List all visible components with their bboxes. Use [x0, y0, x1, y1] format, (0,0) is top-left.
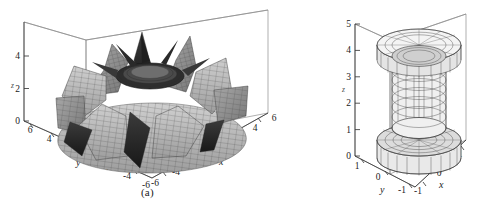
panel-a: 0 2 4 z 6 4 2 0 -2 -4 -6 y: [0, 0, 280, 209]
z-axis-a: 0 2 4 z: [10, 22, 29, 126]
mesh-surface-b: [377, 29, 461, 176]
panel-b-canvas: 0 1 2 3 4 5 z 1 0 -1 y: [280, 0, 479, 209]
y-tick-b-0: 0: [376, 172, 381, 182]
z-tick-b-0: 0: [346, 151, 351, 161]
y-tick-a-4: 4: [47, 134, 52, 144]
z-tick-b-1: 1: [346, 125, 351, 135]
panel-b: 0 1 2 3 4 5 z 1 0 -1 y: [280, 0, 479, 209]
figure-container: 0 2 4 z 6 4 2 0 -2 -4 -6 y: [0, 0, 479, 209]
x-tick-a-4: 4: [253, 123, 258, 133]
x-axis-label-b: x: [438, 179, 444, 190]
y-tick-b-m1: -1: [398, 185, 406, 195]
surface-a: [56, 32, 248, 173]
z-tick-a-4: 4: [15, 51, 20, 61]
z-tick-b-2: 2: [346, 98, 351, 108]
z-tick-b-4: 4: [346, 45, 351, 55]
y-tick-b-1: 1: [355, 161, 360, 171]
y-tick-a-6: 6: [28, 125, 33, 135]
z-axis-label-a: z: [10, 81, 14, 90]
z-tick-b-3: 3: [346, 72, 351, 82]
z-axis-label-b: z: [341, 85, 345, 94]
z-tick-a-2: 2: [15, 84, 20, 94]
z-tick-b-5: 5: [346, 19, 351, 29]
x-tick-b-m1: -1: [414, 186, 422, 196]
y-axis-label-b: y: [379, 184, 385, 195]
z-tick-a-0: 0: [15, 116, 20, 126]
z-axis-b: 0 1 2 3 4 5 z: [341, 19, 360, 161]
panel-a-canvas: 0 2 4 z 6 4 2 0 -2 -4 -6 y: [0, 0, 280, 209]
caption-a: (a): [141, 186, 154, 198]
x-tick-a-6: 6: [272, 113, 277, 123]
